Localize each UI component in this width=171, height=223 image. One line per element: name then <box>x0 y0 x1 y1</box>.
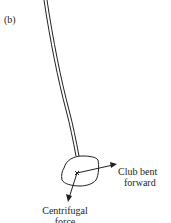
club-label-line2: forward <box>118 177 157 188</box>
club-label-line1: Club bent <box>118 166 157 177</box>
club-head <box>62 156 99 186</box>
centrifugal-arrow-head <box>66 194 72 202</box>
club-shaft <box>44 0 76 156</box>
force-label-line1: Centrifugal <box>39 205 91 216</box>
forward-arrow-head <box>110 162 117 168</box>
club-shaft-inner <box>47 0 79 156</box>
force-label-line2: force <box>39 216 91 223</box>
golf-club-diagram <box>0 0 171 223</box>
centrifugal-force-label: Centrifugal force <box>39 205 91 223</box>
club-bent-forward-label: Club bent forward <box>118 166 157 188</box>
